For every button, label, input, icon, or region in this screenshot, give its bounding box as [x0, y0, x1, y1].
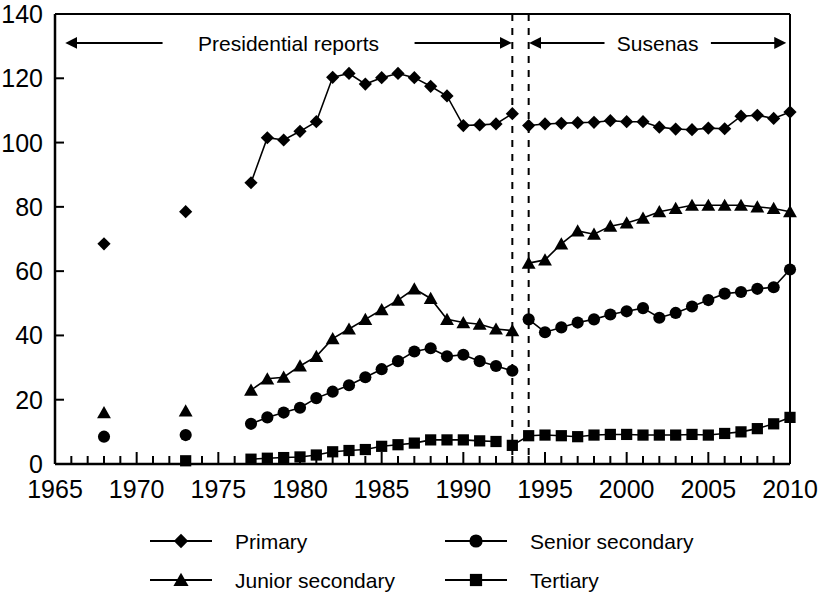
data-point-diamond — [310, 115, 323, 128]
data-point-triangle — [293, 359, 307, 371]
data-point-triangle — [489, 322, 503, 334]
data-point-square — [523, 430, 534, 441]
data-point-diamond — [440, 89, 453, 102]
legend-item-junior-secondary[interactable]: Junior secondary — [150, 569, 395, 592]
data-point-triangle — [375, 303, 389, 315]
data-point-square — [474, 435, 485, 446]
data-point-diamond — [424, 80, 437, 93]
data-point-circle — [278, 406, 290, 418]
legend-marker-diamond-icon — [174, 534, 188, 548]
x-tick-label: 2005 — [681, 475, 737, 503]
annotation-label: Susenas — [617, 32, 699, 55]
data-point-circle — [670, 307, 682, 319]
legend-item-primary[interactable]: Primary — [150, 530, 308, 553]
data-point-diamond — [375, 71, 388, 84]
data-point-triangle — [391, 293, 405, 305]
legend-marker-square-icon — [470, 574, 482, 586]
x-tick-label: 1975 — [191, 475, 247, 503]
y-tick-label: 120 — [1, 64, 43, 92]
data-point-circle — [653, 312, 665, 324]
y-tick-label: 100 — [1, 129, 43, 157]
data-point-circle — [751, 283, 763, 295]
data-point-diamond — [702, 122, 715, 135]
data-point-triangle — [571, 224, 585, 236]
data-point-square — [180, 455, 191, 466]
data-point-triangle — [244, 383, 258, 395]
data-point-circle — [343, 379, 355, 391]
data-point-circle — [768, 281, 780, 293]
legend-label: Junior secondary — [235, 569, 395, 592]
data-point-diamond — [342, 67, 355, 80]
data-point-square — [327, 446, 338, 457]
data-point-diamond — [489, 117, 502, 130]
data-point-square — [621, 429, 632, 440]
enrollment-rate-line-chart: 0204060801001201401965197019751980198519… — [0, 0, 823, 599]
data-point-triangle — [358, 313, 372, 325]
data-point-triangle — [342, 322, 356, 334]
data-point-diamond — [636, 115, 649, 128]
data-point-triangle — [179, 404, 193, 416]
data-point-circle — [735, 286, 747, 298]
data-point-circle — [98, 431, 110, 443]
data-point-diamond — [408, 71, 421, 84]
data-point-circle — [261, 411, 273, 423]
data-point-diamond — [244, 176, 257, 189]
x-tick-label: 1965 — [27, 475, 83, 503]
data-point-diamond — [473, 118, 486, 131]
series-senior-secondary — [98, 263, 796, 442]
data-point-square — [752, 423, 763, 434]
data-point-diamond — [555, 117, 568, 130]
span-annotations: Presidential reportsSusenas — [76, 32, 775, 55]
data-point-triangle — [440, 313, 454, 325]
data-point-square — [262, 453, 273, 464]
data-point-square — [507, 440, 518, 451]
data-point-circle — [784, 263, 796, 275]
data-point-diamond — [391, 67, 404, 80]
data-point-square — [784, 412, 795, 423]
data-point-circle — [180, 429, 192, 441]
data-point-square — [572, 431, 583, 442]
data-point-square — [637, 429, 648, 440]
legend-label: Senior secondary — [530, 530, 694, 553]
data-point-square — [719, 428, 730, 439]
data-point-diamond — [179, 205, 192, 218]
data-point-square — [278, 452, 289, 463]
y-tick-label: 20 — [15, 386, 43, 414]
period-divider-lines — [512, 14, 528, 464]
data-point-diamond — [685, 123, 698, 136]
data-point-circle — [490, 360, 502, 372]
data-point-diamond — [653, 121, 666, 134]
data-point-circle — [702, 294, 714, 306]
legend-item-senior-secondary[interactable]: Senior secondary — [445, 530, 694, 553]
data-point-circle — [245, 418, 257, 430]
data-point-square — [441, 434, 452, 445]
data-point-circle — [392, 355, 404, 367]
legend-marker-circle-icon — [469, 534, 482, 547]
x-tick-label: 1970 — [109, 475, 165, 503]
x-tick-label: 1990 — [436, 475, 492, 503]
data-point-circle — [588, 313, 600, 325]
data-point-square — [425, 434, 436, 445]
x-tick-label: 2010 — [762, 475, 818, 503]
data-point-diamond — [751, 109, 764, 122]
data-point-circle — [539, 326, 551, 338]
legend-label: Primary — [235, 530, 308, 553]
presidential-reports-span: Presidential reports — [76, 32, 501, 55]
data-point-circle — [359, 371, 371, 383]
data-point-diamond — [277, 133, 290, 146]
x-tick-label: 1995 — [517, 475, 573, 503]
series-line — [512, 417, 790, 445]
data-point-square — [458, 434, 469, 445]
data-point-circle — [686, 300, 698, 312]
data-point-circle — [506, 365, 518, 377]
data-point-circle — [555, 321, 567, 333]
x-tick-label: 1980 — [272, 475, 328, 503]
data-point-triangle — [424, 292, 438, 304]
data-point-diamond — [97, 237, 110, 250]
data-point-square — [409, 437, 420, 448]
y-tick-label: 0 — [29, 450, 43, 478]
data-point-circle — [621, 305, 633, 317]
data-point-square — [539, 429, 550, 440]
data-point-diamond — [538, 117, 551, 130]
legend-item-tertiary[interactable]: Tertiary — [445, 569, 599, 592]
